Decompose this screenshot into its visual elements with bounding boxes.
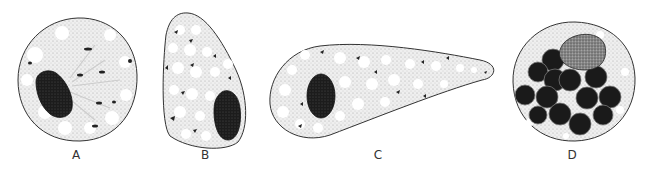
cell-c: [270, 44, 494, 138]
panel-label-d: D: [562, 148, 582, 162]
panel-label-c: C: [368, 148, 388, 162]
nucleus-c: [307, 74, 335, 118]
cell-d: [513, 22, 635, 141]
cell-b: [163, 13, 246, 148]
nucleus-b: [214, 91, 241, 140]
panel-label-a: A: [66, 148, 86, 162]
figure-canvas: [0, 0, 652, 174]
panel-label-b: B: [195, 148, 215, 162]
cell-a: [18, 18, 137, 141]
